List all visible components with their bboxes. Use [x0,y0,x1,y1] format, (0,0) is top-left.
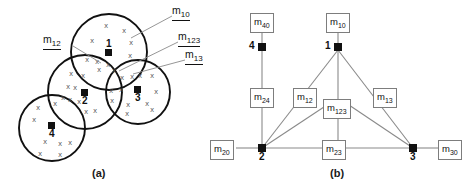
svg-text:x: x [90,36,94,45]
svg-text:x: x [120,73,124,82]
svg-text:x: x [36,103,40,112]
svg-text:x: x [68,95,72,104]
svg-text:x: x [38,149,42,158]
svg-text:x: x [81,71,85,80]
svg-text:x: x [66,82,70,91]
panel-caption-b: (b) [330,167,344,179]
svg-text:x: x [150,71,154,80]
svg-text:x: x [61,93,65,102]
svg-text:x: x [43,137,47,146]
edge-label-m20: m20 [210,140,234,160]
svg-text:x: x [58,150,62,159]
graph-node-label-3: 3 [410,151,416,162]
svg-text:x: x [68,138,72,147]
graph-node-label-1: 1 [325,40,331,51]
cluster-label-4: 4 [49,128,55,139]
svg-text:x: x [128,51,132,60]
svg-text:x: x [53,99,57,108]
svg-text:x: x [110,96,114,105]
svg-text:x: x [84,107,88,116]
svg-text:x: x [122,26,126,35]
graph-node-1 [334,43,342,51]
cluster-label-2: 2 [82,95,88,106]
figure-vector-layer: xx xx xx xx xx xx xx xx xx xx xx xx xx x… [0,0,474,194]
edge-label-m13: m13 [373,88,397,108]
edge-label-m30: m30 [438,140,462,160]
cluster-circles [19,14,170,161]
svg-text:x: x [130,72,134,81]
region-label-m10: m10 [172,5,190,21]
svg-text:x: x [126,100,130,109]
edge-m123-node2 [262,103,330,148]
svg-text:x: x [119,85,123,94]
svg-text:x: x [129,38,133,47]
svg-text:x: x [150,105,154,114]
cluster-label-1: 1 [106,38,112,49]
svg-text:x: x [73,83,77,92]
svg-text:x: x [32,115,36,124]
svg-text:x: x [97,65,101,74]
svg-text:x: x [93,106,97,115]
cluster-label-3: 3 [135,92,141,103]
graph-node-label-4: 4 [249,40,255,51]
figure-container: xx xx xx xx xx xx xx xx xx xx xx xx xx x… [0,0,474,194]
svg-text:x: x [85,55,89,64]
edge-label-m23: m23 [322,140,346,160]
svg-text:x: x [112,66,116,75]
panel-caption-a: (a) [92,167,105,179]
svg-text:x: x [145,99,149,108]
edge-label-m123: m123 [323,99,351,119]
cluster-marker-1 [105,49,112,56]
region-label-m13: m13 [185,49,203,65]
region-label-m12: m12 [43,34,61,50]
svg-text:x: x [154,87,158,96]
svg-text:x: x [106,60,110,69]
svg-text:x: x [104,21,108,30]
svg-text:x: x [58,139,62,148]
edge-label-m10: m10 [326,13,350,33]
svg-text:x: x [77,97,81,106]
edge-label-m24: m24 [250,88,274,108]
edge-label-m12: m12 [293,88,317,108]
edge-label-m40: m40 [250,13,274,33]
edge-m123-node3 [346,103,413,148]
svg-text:x: x [125,109,129,118]
leader-m13 [133,60,185,74]
region-label-m123: m123 [178,31,200,47]
svg-text:x: x [109,86,113,95]
svg-text:x: x [69,69,73,78]
graph-node-label-2: 2 [259,151,265,162]
graph-node-4 [258,43,266,51]
